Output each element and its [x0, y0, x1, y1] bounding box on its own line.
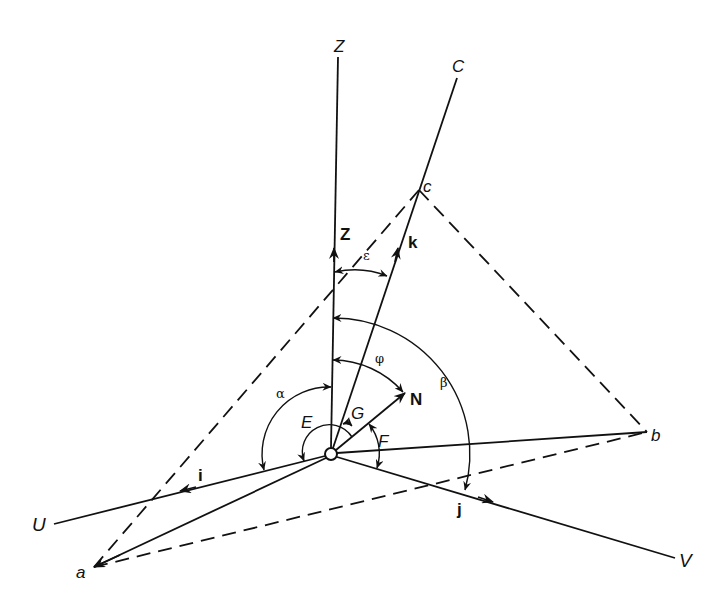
crystal-plane-diagram: Z C U V a b c Z k i j N ε β φ α E G F — [0, 0, 720, 600]
label-vector-k: k — [408, 233, 418, 252]
label-angle-e: E — [301, 413, 313, 432]
axis-c — [333, 78, 457, 448]
vector-labels: Z k i j N — [198, 225, 462, 519]
label-angle-beta: β — [440, 375, 448, 390]
label-vector-z: Z — [340, 225, 350, 244]
label-point-c: c — [423, 177, 432, 196]
angle-arcs — [262, 270, 470, 490]
edge-c-b — [419, 190, 647, 432]
label-angle-f: F — [378, 432, 390, 451]
label-angle-epsilon: ε — [363, 248, 370, 263]
edge-a-b — [94, 432, 647, 567]
arc-g — [343, 423, 352, 426]
label-angle-alpha: α — [276, 386, 285, 401]
label-point-a: a — [76, 563, 85, 582]
axis-v — [337, 457, 675, 558]
label-point-b: b — [651, 426, 660, 445]
label-angle-g: G — [351, 404, 364, 423]
label-axis-u: U — [32, 514, 46, 535]
label-axis-z: Z — [333, 37, 345, 56]
label-vector-i: i — [198, 466, 203, 485]
ray-to-a — [94, 458, 326, 567]
axes — [54, 57, 675, 567]
arc-phi — [333, 360, 403, 392]
label-axis-c: C — [452, 57, 465, 76]
point-labels: a b c — [76, 177, 660, 582]
label-angle-phi: φ — [375, 351, 384, 366]
arc-epsilon — [335, 270, 387, 276]
edge-a-c — [94, 190, 419, 567]
label-vector-n: N — [410, 390, 422, 409]
axis-u — [54, 456, 325, 524]
origin-point — [325, 448, 337, 460]
label-vector-j: j — [456, 500, 462, 519]
label-axis-v: V — [679, 550, 694, 571]
plane-trace-triangle — [94, 190, 647, 567]
axis-labels: Z C U V — [32, 37, 694, 571]
normal-n — [336, 393, 405, 450]
